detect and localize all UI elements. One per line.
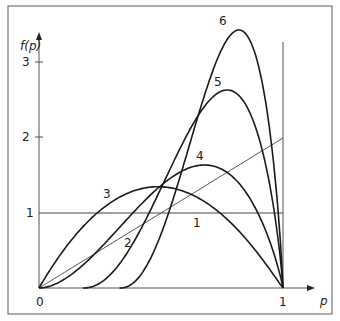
chart: f(p) p 0 1 1 2 3 1 2 3 4 5 6 (0, 0, 340, 321)
curve-label-1: 1 (193, 216, 201, 230)
x-tick-1: 1 (279, 295, 287, 309)
x-tick-0: 0 (36, 295, 44, 309)
curve-5 (83, 90, 283, 288)
y-tick-label-2: 2 (22, 130, 30, 144)
curve-label-5: 5 (214, 75, 222, 89)
x-axis-arrow-icon (307, 285, 315, 291)
curve-3 (39, 187, 283, 288)
curve-label-2: 2 (124, 236, 132, 250)
y-tick-label-3: 3 (22, 55, 30, 69)
y-tick-label-1: 1 (26, 206, 34, 220)
curve-label-6: 6 (219, 14, 227, 28)
y-axis-label: f(p) (20, 39, 41, 53)
x-axis-label: p (319, 294, 328, 308)
curve-4 (39, 165, 283, 288)
curve-label-4: 4 (196, 149, 204, 163)
curve-label-3: 3 (103, 187, 111, 201)
